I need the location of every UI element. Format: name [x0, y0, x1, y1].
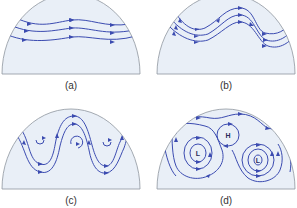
high-pressure-label: H: [225, 132, 230, 139]
panel-a: (a): [2, 0, 140, 91]
low-pressure-label-right: L: [256, 157, 261, 164]
panel-label-c: (c): [65, 195, 77, 206]
panel-label-a: (a): [65, 80, 77, 91]
panel-c: (c): [2, 109, 140, 206]
panel-d: H L L (d): [157, 109, 295, 206]
hemisphere-c: [2, 109, 140, 189]
low-pressure-label-left: L: [196, 150, 201, 157]
panel-label-d: (d): [220, 195, 232, 206]
hemisphere-b: [157, 0, 295, 74]
panel-b: (b): [157, 0, 296, 91]
panel-label-b: (b): [220, 80, 232, 91]
atmospheric-flow-diagram: (a) (b): [0, 0, 297, 208]
